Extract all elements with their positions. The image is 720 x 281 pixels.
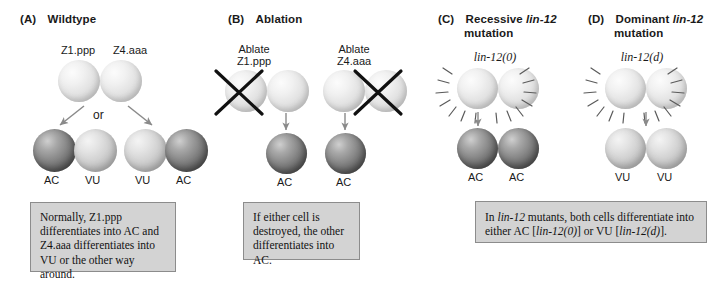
caption-text-ablation: If either cell is destroyed, the other d… xyxy=(253,211,344,266)
panel-d-header: (D) Dominant lin-12 mutation xyxy=(588,13,718,40)
outcome-cell-ac-ablation-right xyxy=(325,133,366,174)
panel-wildtype: (A) Wildtype Z1.ppp Z4.aaa or AC VU VU A… xyxy=(0,0,215,281)
outcome-cell-ac-ablation-left xyxy=(266,133,307,174)
panel-d-letter: (D) xyxy=(588,13,604,25)
surviving-cell-left xyxy=(267,70,309,112)
mutant-cell-c-right xyxy=(498,68,539,109)
ablate-word-left: Ablate xyxy=(223,43,285,55)
outcome-cell-vu-right xyxy=(124,129,167,172)
fate-label-vu-dominant-right: VU xyxy=(657,171,672,183)
outcome-cell-ac-recessive-left xyxy=(457,128,498,169)
fate-label-ac-recessive-right: AC xyxy=(509,171,524,183)
mutant-cell-c-left xyxy=(457,68,498,109)
fate-label-vu-dominant-left: VU xyxy=(615,171,630,183)
ablate-label-right: Ablate Z4.aaa xyxy=(323,43,385,67)
panel-c-title-pre: Recessive xyxy=(466,13,526,25)
precursor-label-z1ppp: Z1.ppp xyxy=(56,44,100,56)
panel-c-letter: (C) xyxy=(438,13,454,25)
ablate-word-right: Ablate xyxy=(323,43,385,55)
panel-d-title-pre: Dominant xyxy=(616,13,673,25)
fate-label-ac-2: AC xyxy=(176,174,191,186)
panel-d-title-gene: lin-12 xyxy=(673,13,704,25)
panel-c-title-post: mutation xyxy=(464,27,568,41)
precursor-cell-z4aaa xyxy=(100,60,142,102)
caption-box-wildtype: Normally, Z1.ppp differentiates into AC … xyxy=(30,202,176,272)
outcome-cell-vu-dominant-right xyxy=(646,128,687,169)
ablated-cell-z1ppp xyxy=(225,70,267,112)
ablated-cell-z4aaa xyxy=(365,70,407,112)
caption-text-wildtype: Normally, Z1.ppp differentiates into AC … xyxy=(40,211,159,280)
outcome-cell-vu-dominant-left xyxy=(605,128,646,169)
genotype-label-lin12-d: lin-12(d) xyxy=(592,50,692,65)
fate-label-ac-1: AC xyxy=(44,174,59,186)
mutant-cell-d-right xyxy=(646,68,687,109)
ablate-target-left: Z1.ppp xyxy=(223,55,285,67)
panel-c-header: (C) Recessive lin-12 mutation xyxy=(438,13,568,40)
fate-label-vu-2: VU xyxy=(135,174,150,186)
fate-label-ac-ablation-left: AC xyxy=(277,176,292,188)
precursor-cell-z1ppp xyxy=(58,60,100,102)
shared-caption-gene3: lin-12(d) xyxy=(619,225,660,237)
ablate-target-right: Z4.aaa xyxy=(323,55,385,67)
shared-caption-part1: In xyxy=(485,211,497,223)
caption-box-lin12-mutants: In lin-12 mutants, both cells differenti… xyxy=(475,201,707,243)
genotype-label-lin12-0: lin-12(0) xyxy=(445,50,545,65)
fate-label-ac-recessive-left: AC xyxy=(468,171,483,183)
panel-a-title: Wildtype xyxy=(48,13,97,25)
shared-caption-gene1: lin-12 xyxy=(497,211,524,223)
panel-d-title-post: mutation xyxy=(614,27,718,41)
shared-caption-gene2: lin-12(0) xyxy=(536,225,577,237)
panel-b-letter: (B) xyxy=(228,13,244,25)
ablate-label-left: Ablate Z1.ppp xyxy=(223,43,285,67)
or-connector-label: or xyxy=(93,108,104,122)
panel-c-title-gene: lin-12 xyxy=(526,13,557,25)
panel-b-header: (B) Ablation xyxy=(228,13,302,27)
panel-a-letter: (A) xyxy=(20,13,36,25)
outcome-cell-ac-recessive-right xyxy=(498,128,539,169)
outcome-cell-ac-right xyxy=(165,129,208,172)
surviving-cell-right xyxy=(323,70,365,112)
caption-box-ablation: If either cell is destroyed, the other d… xyxy=(243,202,360,260)
precursor-label-z4aaa: Z4.aaa xyxy=(108,44,152,56)
mutant-cell-d-left xyxy=(605,68,646,109)
panel-a-header: (A) Wildtype xyxy=(20,13,96,27)
outcome-cell-vu-left xyxy=(74,129,117,172)
panel-ablation: (B) Ablation Ablate Z1.ppp Ablate Z4.aaa… xyxy=(215,0,420,281)
fate-label-ac-ablation-right: AC xyxy=(336,176,351,188)
shared-caption-part3: ] or VU [ xyxy=(577,225,619,237)
shared-caption-part4: ]. xyxy=(660,225,667,237)
panel-b-title: Ablation xyxy=(256,13,303,25)
fate-label-vu-1: VU xyxy=(85,174,100,186)
outcome-cell-ac-left xyxy=(33,129,76,172)
